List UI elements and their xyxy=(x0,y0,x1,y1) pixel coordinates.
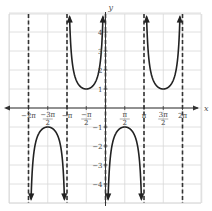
svg-text:1: 1 xyxy=(98,86,102,94)
svg-text:2: 2 xyxy=(161,119,165,127)
svg-text:−2: −2 xyxy=(92,143,102,151)
svg-text:2: 2 xyxy=(98,67,102,75)
cosecant-graph: −2π−3π2−π−π2π2π3π22π−4−3−2−11234xy xyxy=(0,0,212,211)
svg-text:−2π: −2π xyxy=(21,112,36,120)
svg-text:−π: −π xyxy=(62,112,73,120)
svg-text:−4: −4 xyxy=(92,181,103,189)
svg-text:π: π xyxy=(142,112,147,120)
svg-text:4: 4 xyxy=(98,29,103,37)
svg-text:2: 2 xyxy=(123,119,127,127)
svg-text:π: π xyxy=(122,111,127,119)
y-axis-label: y xyxy=(108,3,114,12)
svg-text:−3: −3 xyxy=(92,162,102,170)
svg-text:−1: −1 xyxy=(92,124,102,132)
svg-text:2π: 2π xyxy=(178,112,187,120)
svg-text:2: 2 xyxy=(84,119,88,127)
svg-text:−π: −π xyxy=(81,111,92,119)
svg-text:3π: 3π xyxy=(159,111,168,119)
svg-text:2: 2 xyxy=(46,119,50,127)
svg-text:−3π: −3π xyxy=(40,111,55,119)
x-axis-label: x xyxy=(204,104,209,113)
tick-labels: −2π−3π2−π−π2π2π3π22π−4−3−2−11234xy xyxy=(21,3,209,189)
svg-text:3: 3 xyxy=(98,48,102,56)
